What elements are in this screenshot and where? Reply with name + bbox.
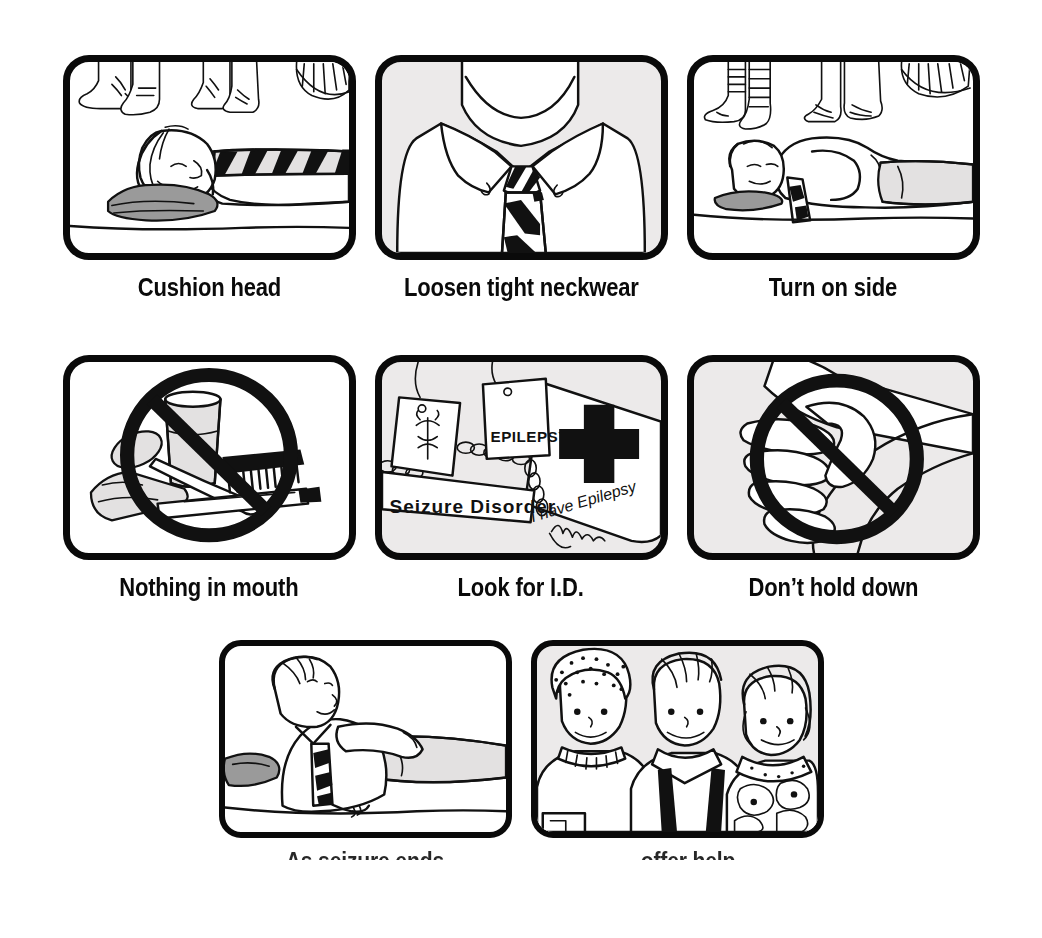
panel-cushion-head[interactable] bbox=[63, 55, 356, 260]
panel-cell-turn-on-side: Turn on side bbox=[677, 55, 989, 302]
illustration-loosen-tight-neckwear bbox=[382, 62, 661, 253]
caption-loosen-tight-neckwear: Loosen tight neckwear bbox=[404, 273, 639, 302]
panel-turn-on-side[interactable] bbox=[687, 55, 980, 260]
panel-offer-help[interactable] bbox=[531, 640, 824, 838]
caption-nothing-in-mouth: Nothing in mouth bbox=[119, 573, 298, 602]
poster-sheet: Cushion head bbox=[0, 0, 1042, 938]
panel-row-3: As seizure ends bbox=[0, 640, 1042, 860]
panel-loosen-tight-neckwear[interactable] bbox=[375, 55, 668, 260]
illustration-dont-hold-down bbox=[694, 362, 973, 553]
illustration-look-for-id: Seizure Disorder bbox=[382, 362, 661, 553]
panel-cell-loosen-tight-neckwear: Loosen tight neckwear bbox=[365, 55, 677, 302]
caption-wrap-offer-help: ... offer help bbox=[610, 838, 743, 860]
panel-dont-hold-down[interactable] bbox=[687, 355, 980, 560]
illustration-turn-on-side bbox=[694, 62, 973, 253]
caption-offer-help: ... offer help bbox=[618, 848, 735, 860]
caption-dont-hold-down: Don’t hold down bbox=[748, 573, 918, 602]
illustration-nothing-in-mouth bbox=[70, 362, 349, 553]
svg-text:EPILEPSY: EPILEPSY bbox=[490, 428, 568, 445]
panel-cell-as-seizure-ends: As seizure ends bbox=[209, 640, 521, 860]
illustration-offer-help bbox=[537, 646, 818, 832]
illustration-cushion-head bbox=[70, 62, 349, 253]
panel-row-1: Cushion head bbox=[0, 55, 1042, 302]
panel-as-seizure-ends[interactable] bbox=[219, 640, 512, 838]
caption-turn-on-side: Turn on side bbox=[769, 273, 897, 302]
illustration-as-seizure-ends bbox=[225, 646, 506, 832]
caption-wrap-as-seizure-ends: As seizure ends bbox=[275, 838, 455, 860]
panel-cell-nothing-in-mouth: Nothing in mouth bbox=[53, 355, 365, 602]
panel-row-2: Nothing in mouth bbox=[0, 355, 1042, 602]
caption-cushion-head: Cushion head bbox=[137, 273, 280, 302]
panel-cell-look-for-id: Seizure Disorder bbox=[365, 355, 677, 602]
caption-as-seizure-ends: As seizure ends bbox=[286, 848, 444, 860]
panel-look-for-id[interactable]: Seizure Disorder bbox=[375, 355, 668, 560]
panel-cell-dont-hold-down: Don’t hold down bbox=[677, 355, 989, 602]
caption-look-for-id: Look for I.D. bbox=[458, 573, 584, 602]
panel-nothing-in-mouth[interactable] bbox=[63, 355, 356, 560]
panel-cell-cushion-head: Cushion head bbox=[53, 55, 365, 302]
panel-cell-offer-help: ... offer help bbox=[521, 640, 833, 860]
